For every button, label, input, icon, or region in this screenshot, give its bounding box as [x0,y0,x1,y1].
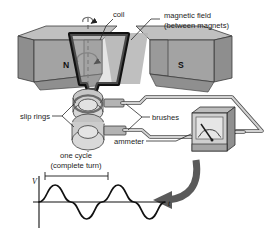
one-cycle-label-line1: one cycle [60,151,92,160]
magnet-south-label: S [178,60,184,70]
slip-rings [72,89,104,150]
ammeter-label: ammeter [114,137,144,146]
diagram-canvas: N S [0,0,279,233]
magnetic-field-label-line2: (between magnets) [164,21,229,30]
generator-diagram-figure: N S [0,0,279,233]
slip-rings-label: slip rings [20,112,50,121]
coil-label: coil [113,10,125,19]
magnetic-field-label-line1: magnetic field [164,11,211,20]
ammeter [192,107,235,151]
brushes-label: brushes [152,113,179,122]
one-cycle-label-line2: (complete turn) [50,161,102,170]
magnet-north-label: N [63,60,69,70]
coil [70,34,128,90]
